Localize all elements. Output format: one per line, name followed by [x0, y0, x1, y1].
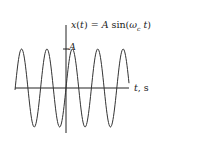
sine-wave-diagram: x(t) = A sin(ωc t) A t, s	[0, 0, 211, 163]
equation-label: x(t) = A sin(ωc t)	[71, 20, 151, 32]
amplitude-label: A	[69, 42, 76, 52]
time-axis-label: t, s	[134, 83, 149, 93]
